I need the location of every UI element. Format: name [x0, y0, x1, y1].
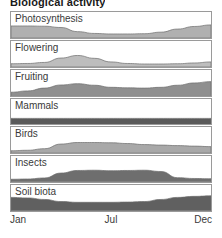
panel-flowering: Flowering — [10, 40, 212, 68]
biological-activity-chart: Biological activity PhotosynthesisFlower… — [0, 0, 222, 238]
panel-fruiting: Fruiting — [10, 69, 212, 97]
panel-stack: PhotosynthesisFloweringFruitingMammalsBi… — [10, 11, 212, 212]
panel-mammals: Mammals — [10, 98, 212, 126]
page-title: Biological activity — [10, 0, 105, 8]
panel-label-insects: Insects — [15, 157, 47, 169]
panel-label-soil-biota: Soil biota — [15, 186, 56, 198]
panel-label-mammals: Mammals — [15, 100, 58, 112]
panel-insects: Insects — [10, 155, 212, 183]
x-tick-jul: Jul — [105, 214, 118, 226]
panel-label-fruiting: Fruiting — [15, 71, 48, 83]
panel-label-flowering: Flowering — [15, 42, 58, 54]
x-tick-jan: Jan — [10, 214, 26, 226]
panel-label-birds: Birds — [15, 128, 38, 140]
panel-label-photosynthesis: Photosynthesis — [15, 13, 83, 25]
x-axis: Jan Jul Dec — [10, 214, 212, 230]
panel-birds: Birds — [10, 126, 212, 154]
panel-soil-biota: Soil biota — [10, 184, 212, 212]
panel-photosynthesis: Photosynthesis — [10, 11, 212, 39]
area-plot-birds — [11, 127, 211, 153]
x-tick-dec: Dec — [194, 214, 212, 226]
